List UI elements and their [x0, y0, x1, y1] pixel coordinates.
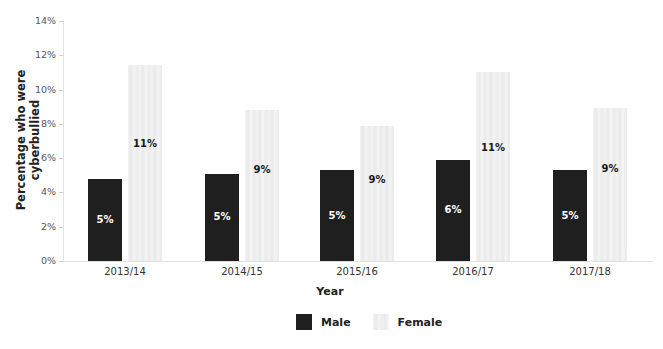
legend-label-male: Male — [321, 316, 351, 329]
x-tick-label: 2014/15 — [202, 266, 282, 277]
y-axis-title: Percentage who were cyberbullied — [14, 30, 30, 250]
x-tick-label: 2017/18 — [550, 266, 630, 277]
y-tick-label: 12% — [18, 49, 56, 60]
legend-swatch-male — [296, 314, 312, 330]
legend-swatch-female — [373, 314, 389, 330]
clipped-title-fragment — [110, 0, 410, 3]
data-label-male: 5% — [317, 210, 357, 221]
x-tick-label: 2013/14 — [85, 266, 165, 277]
data-label-female: 11% — [125, 138, 165, 149]
y-tick-label: 6% — [18, 152, 56, 163]
x-axis-title: Year — [300, 285, 360, 298]
y-tick-label: 10% — [18, 84, 56, 95]
data-label-male: 5% — [202, 211, 242, 222]
legend: Male Female — [296, 314, 464, 330]
bar-female-2014-15 — [245, 110, 279, 261]
y-tick-label: 2% — [18, 221, 56, 232]
x-axis-line — [63, 261, 653, 262]
bar-female-2016-17 — [476, 72, 510, 261]
legend-label-female: Female — [398, 316, 443, 329]
x-tick-label: 2016/17 — [433, 266, 513, 277]
data-label-male: 5% — [550, 210, 590, 221]
data-label-female: 9% — [590, 163, 630, 174]
y-tick-label: 0% — [18, 255, 56, 266]
bar-female-2013-14 — [128, 65, 162, 261]
data-label-male: 6% — [433, 204, 473, 215]
legend-item-male: Male — [296, 314, 351, 330]
y-tick-label: 14% — [18, 15, 56, 26]
y-tick-label: 4% — [18, 186, 56, 197]
x-tick-label: 2015/16 — [317, 266, 397, 277]
y-axis-line — [63, 22, 64, 262]
data-label-female: 11% — [473, 142, 513, 153]
data-label-female: 9% — [242, 164, 282, 175]
y-tick-label: 8% — [18, 118, 56, 129]
data-label-female: 9% — [357, 174, 397, 185]
bar-female-2017-18 — [593, 108, 627, 261]
legend-item-female: Female — [373, 314, 443, 330]
data-label-male: 5% — [85, 214, 125, 225]
bar-female-2015-16 — [360, 126, 394, 261]
